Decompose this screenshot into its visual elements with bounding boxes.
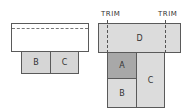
left-panel-b: B (21, 51, 51, 74)
trim-label-right: TRIM (158, 10, 177, 18)
right-panel-c: C (136, 52, 165, 108)
right-panel-b: B (107, 78, 137, 108)
trim-line-right (165, 20, 166, 53)
left-fold-line (12, 28, 88, 29)
left-panel-c: C (50, 51, 79, 74)
right-diagram: TRIM TRIM D A B C (91, 0, 183, 112)
right-panel-a: A (107, 52, 137, 79)
trim-line-left (107, 20, 108, 53)
trim-label-left: TRIM (101, 10, 120, 18)
left-panel-c-label: C (62, 58, 68, 67)
right-panel-d-label: D (136, 34, 142, 43)
right-panel-c-label: C (148, 76, 154, 85)
right-panel-a-label: A (119, 61, 124, 70)
left-panel-b-label: B (33, 58, 39, 67)
right-panel-d: D (98, 23, 181, 53)
left-diagram: B C (0, 0, 92, 112)
right-panel-b-label: B (119, 89, 125, 98)
